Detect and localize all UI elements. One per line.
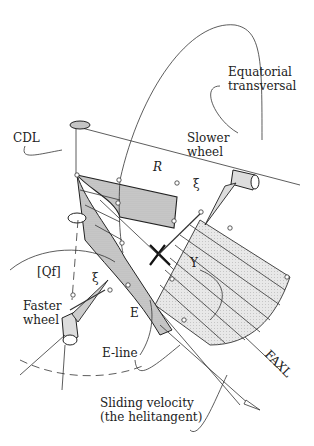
label-sliding: Sliding velocity	[100, 396, 194, 410]
contact-cross	[150, 245, 170, 265]
label-xi-bottom: ξ	[92, 271, 99, 285]
label-r: R	[152, 160, 162, 174]
label-xi-top: ξ	[193, 177, 200, 191]
sliding-arrowhead	[244, 400, 260, 410]
faster-axis-dashed	[72, 220, 78, 300]
cdl-oval	[70, 121, 90, 129]
label-slower: Slower	[187, 131, 230, 145]
label-qf: [Qf]	[37, 265, 61, 279]
label-faxl: FAXL	[262, 347, 295, 380]
faster-wheel-icon	[62, 280, 108, 345]
label-y: Y	[189, 256, 199, 270]
label-equatorial: Equatorial	[228, 65, 292, 79]
eline-leader	[135, 345, 180, 371]
faster-axis-lines	[20, 335, 65, 390]
label-e: E	[130, 306, 139, 320]
label-transversal: transversal	[228, 79, 297, 93]
label-eline: E-line	[102, 346, 138, 360]
label-slower-wheel: wheel	[187, 145, 223, 159]
lower-dashed-arc	[20, 360, 145, 376]
gear-diagram: Equatorial transversal CDL Slower wheel …	[0, 0, 314, 446]
cdl-leader	[24, 146, 62, 155]
slower-wheel-icon	[205, 170, 259, 225]
label-helitangent: (the helitangent)	[100, 410, 202, 424]
lower-oval	[68, 213, 86, 223]
label-faster-wheel: wheel	[23, 313, 59, 327]
label-cdl: CDL	[13, 131, 40, 145]
label-faster: Faster	[23, 299, 62, 313]
equatorial-leader	[211, 86, 238, 133]
